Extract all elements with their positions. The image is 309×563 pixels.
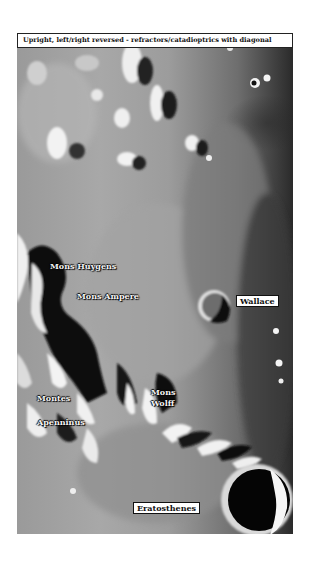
label-mons-ampere: Mons Ampere <box>77 291 139 301</box>
lunar-surface-image: Mons Huygens Mons Ampere Wallace Montes … <box>17 33 293 534</box>
orientation-caption: Upright, left/right reversed - refractor… <box>17 33 293 48</box>
label-mons: Mons <box>151 387 176 397</box>
label-montes: Montes <box>37 393 70 403</box>
label-eratosthenes: Eratosthenes <box>133 502 200 514</box>
label-mons-huygens: Mons Huygens <box>50 261 116 271</box>
lunar-terrain-graphic <box>17 33 293 534</box>
label-wolff: Wolff <box>151 398 174 408</box>
label-wallace: Wallace <box>236 295 279 307</box>
label-apenninus: Apenninus <box>37 417 85 427</box>
